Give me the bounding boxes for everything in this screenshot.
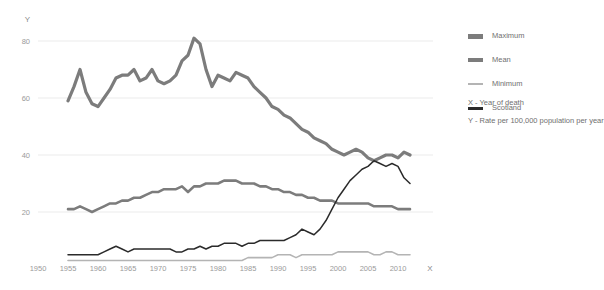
series-line-mean [68,181,410,212]
x-tick-label: 1965 [120,264,137,273]
x-tick-label: 2010 [390,264,407,273]
series-line-maximum [68,38,410,161]
x-axis-note: X - Year of death [468,98,524,107]
mean-swatch-icon [468,58,483,62]
x-tick-label: 2000 [330,264,347,273]
x-tick-label: 1995 [300,264,317,273]
legend-label-maximum: Maximum [492,32,525,40]
legend-label-mean: Mean [492,56,511,64]
x-tick-label: 1990 [270,264,287,273]
legend-item-mean[interactable]: Mean [468,52,588,68]
x-axis-title: X [427,264,433,273]
y-axis-note: Y - Rate per 100,000 population per year [468,116,604,125]
line-chart-svg: 20406080Y1950195519601965197019751980198… [0,0,440,290]
chart-plot-area: 20406080Y1950195519601965197019751980198… [0,0,440,290]
chart-legend: Maximum Mean Minimum Scotland [468,28,588,124]
y-tick-label: 20 [22,208,30,217]
x-tick-label: 2005 [360,264,377,273]
legend-item-maximum[interactable]: Maximum [468,28,588,44]
x-tick-label: 1975 [180,264,197,273]
y-tick-label: 80 [22,37,30,46]
legend-label-minimum: Minimum [492,80,522,88]
series-line-minimum [68,252,410,261]
x-tick-label: 1985 [240,264,257,273]
max-swatch-icon [468,34,483,39]
y-tick-label: 60 [22,94,30,103]
y-axis-title: Y [25,15,31,24]
x-tick-label: 1980 [210,264,227,273]
legend-item-minimum[interactable]: Minimum [468,76,588,92]
x-tick-label: 1955 [60,264,77,273]
x-tick-label: 1970 [150,264,167,273]
x-tick-label: 1950 [30,264,47,273]
x-tick-label: 1960 [90,264,107,273]
series-line-scotland [68,161,410,255]
y-tick-label: 40 [22,151,30,160]
min-swatch-icon [468,83,483,85]
